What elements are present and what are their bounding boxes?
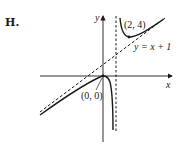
min-point-label: (2, 4) <box>124 19 146 31</box>
oblique-asymptote-label: y = x + 1 <box>133 41 171 52</box>
function-graph: y x (2, 4) (0, 0) y = x + 1 <box>0 0 180 150</box>
max-point-label: (0, 0) <box>81 90 103 102</box>
y-axis-label: y <box>94 12 100 23</box>
max-point-marker <box>102 75 105 78</box>
min-point-marker <box>128 36 131 39</box>
x-axis-label: x <box>165 79 171 90</box>
max-point-leader <box>96 78 102 90</box>
